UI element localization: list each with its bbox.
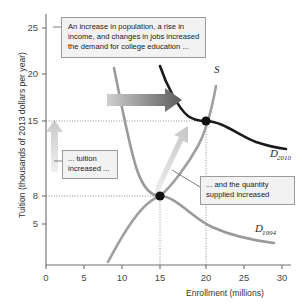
x-axis-ticks: 0 5 10 15 20 25 30 — [43, 265, 287, 283]
new-equilibrium-point — [201, 116, 210, 125]
callout-tuition-increased: ... tuition increased ... — [62, 150, 118, 179]
x-axis-title: Enrollment (millions) — [186, 288, 264, 298]
x-tick-20: 20 — [201, 272, 212, 283]
x-tick-30: 30 — [277, 272, 288, 283]
original-equilibrium-point — [155, 191, 164, 200]
y-tick-20: 20 — [27, 68, 38, 79]
y-tick-5: 5 — [33, 218, 38, 229]
curve-label-supply: S — [214, 63, 220, 75]
x-tick-10: 10 — [117, 272, 128, 283]
y-tick-8: 8 — [33, 190, 38, 201]
y-tick-25: 25 — [27, 22, 38, 33]
curve-label-demand-1994: D 1994 — [254, 222, 277, 237]
callout-quantity-supplied: ... and the quantity supplied increased — [200, 176, 295, 205]
x-tick-5: 5 — [81, 272, 86, 283]
y-axis-title: Tuition (thousands of 2013 dollars per y… — [17, 25, 27, 245]
curve-label-demand-1994-sub: 1994 — [262, 229, 277, 237]
supply-demand-figure: 25 20 15 8 5 0 5 10 15 20 25 30 S D — [0, 0, 302, 304]
curve-label-demand-2010-sub: 2010 — [277, 154, 292, 162]
x-tick-25: 25 — [239, 272, 250, 283]
y-tick-15: 15 — [27, 115, 38, 126]
tuition-increase-arrow — [46, 120, 63, 172]
callout-demand-shift: An increase in population, a rise in inc… — [61, 17, 206, 58]
x-tick-15: 15 — [155, 272, 166, 283]
x-tick-0: 0 — [43, 272, 48, 283]
y-axis-ticks: 25 20 15 8 5 — [27, 22, 46, 229]
